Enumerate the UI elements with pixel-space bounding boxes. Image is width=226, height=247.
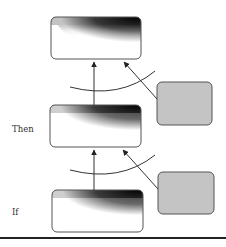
then-box — [50, 105, 141, 147]
if-box — [52, 190, 143, 232]
if-label: If — [12, 207, 19, 217]
then-label: Then — [12, 124, 34, 134]
lower-side-box — [158, 172, 214, 214]
top-box — [51, 17, 141, 59]
upper-side-arrow — [124, 62, 157, 99]
upper-side-box — [157, 82, 212, 125]
bottom-rule — [0, 237, 226, 239]
upper-arc — [70, 71, 155, 91]
